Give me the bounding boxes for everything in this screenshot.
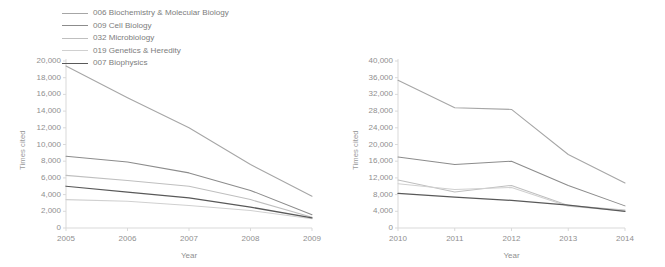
y-axis-tick-label: 0 bbox=[18, 224, 61, 232]
y-axis-tick-label: 14,000 bbox=[18, 107, 61, 115]
x-axis-tick-label: 2013 bbox=[548, 235, 588, 243]
y-axis-tick-label: 2,000 bbox=[18, 207, 61, 215]
legend-line-icon bbox=[62, 63, 88, 64]
legend-item: 007 Biophysics bbox=[62, 58, 229, 68]
x-axis-tick-label: 2012 bbox=[492, 235, 532, 243]
x-axis-tick-label: 2006 bbox=[108, 235, 148, 243]
y-axis-tick-label: 40,000 bbox=[350, 57, 393, 65]
x-axis-tick-label: 2008 bbox=[231, 235, 271, 243]
y-axis-tick-label: 8,000 bbox=[350, 191, 393, 199]
legend-item-label: 019 Genetics & Heredity bbox=[93, 46, 181, 56]
legend-item: 019 Genetics & Heredity bbox=[62, 46, 229, 56]
legend-line-icon bbox=[62, 50, 88, 51]
y-axis-tick-label: 4,000 bbox=[18, 191, 61, 199]
legend-item: 032 Microbiology bbox=[62, 33, 229, 43]
legend-item: 009 Cell Biology bbox=[62, 21, 229, 31]
y-axis-tick-label: 8,000 bbox=[18, 157, 61, 165]
data-series-line bbox=[66, 66, 312, 196]
legend-item-label: 006 Biochemistry & Molecular Biology bbox=[93, 8, 229, 18]
y-axis-tick-label: 6,000 bbox=[18, 174, 61, 182]
legend-item-label: 009 Cell Biology bbox=[93, 21, 152, 31]
x-axis-tick-label: 2011 bbox=[435, 235, 475, 243]
data-series-line bbox=[66, 200, 312, 219]
dual-line-chart-figure: 006 Biochemistry & Molecular Biology009 … bbox=[0, 0, 665, 267]
data-series-line bbox=[66, 186, 312, 218]
y-axis-tick-label: 12,000 bbox=[18, 124, 61, 132]
legend-line-icon bbox=[62, 25, 88, 26]
data-series-line bbox=[398, 80, 625, 183]
x-axis-tick-label: 2005 bbox=[46, 235, 86, 243]
chart-legend: 006 Biochemistry & Molecular Biology009 … bbox=[62, 8, 229, 68]
y-axis-tick-label: 18,000 bbox=[18, 74, 61, 82]
y-axis-tick-label: 0 bbox=[350, 224, 393, 232]
legend-item-label: 032 Microbiology bbox=[93, 33, 154, 43]
y-axis-tick-label: 24,000 bbox=[350, 124, 393, 132]
x-axis-tick-label: 2010 bbox=[378, 235, 418, 243]
y-axis-tick-label: 28,000 bbox=[350, 107, 393, 115]
x-axis-tick-label: 2007 bbox=[169, 235, 209, 243]
y-axis-tick-label: 12,000 bbox=[350, 174, 393, 182]
legend-line-icon bbox=[62, 13, 88, 14]
y-axis-tick-label: 20,000 bbox=[350, 141, 393, 149]
y-axis-tick-label: 20,000 bbox=[18, 57, 61, 65]
legend-item-label: 007 Biophysics bbox=[93, 58, 147, 68]
y-axis-tick-label: 16,000 bbox=[350, 157, 393, 165]
x-axis-tick-label: 2009 bbox=[292, 235, 332, 243]
y-axis-tick-label: 16,000 bbox=[18, 90, 61, 98]
y-axis-tick-label: 32,000 bbox=[350, 90, 393, 98]
data-series-line bbox=[398, 157, 625, 206]
x-axis-tick-label: 2014 bbox=[605, 235, 645, 243]
y-axis-tick-label: 4,000 bbox=[350, 207, 393, 215]
y-axis-tick-label: 36,000 bbox=[350, 74, 393, 82]
y-axis-tick-label: 10,000 bbox=[18, 141, 61, 149]
legend-line-icon bbox=[62, 38, 88, 39]
legend-item: 006 Biochemistry & Molecular Biology bbox=[62, 8, 229, 18]
